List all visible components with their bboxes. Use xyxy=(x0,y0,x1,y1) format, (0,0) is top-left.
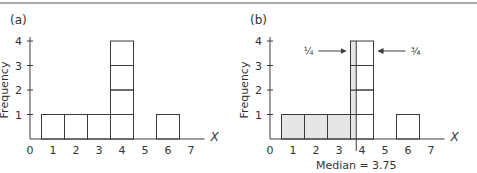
one-quarter-label: ¼ xyxy=(304,46,314,57)
median-caption: Median = 3.75 xyxy=(316,159,397,172)
y-tick-label: 3 xyxy=(15,60,22,73)
histogram-box xyxy=(111,115,134,140)
y-axis-label: Frequency xyxy=(0,61,11,118)
x-axis-label: X xyxy=(209,130,219,144)
y-tick-label: 1 xyxy=(15,109,22,122)
histogram-box xyxy=(111,66,134,91)
panel-label: (a) xyxy=(10,13,27,27)
median-histogram-figure: (a)123401234567XFrequency(b)123401234567… xyxy=(0,0,477,173)
x-tick-label: 4 xyxy=(359,144,366,157)
x-tick-label: 3 xyxy=(96,144,103,157)
histogram-box xyxy=(65,115,88,140)
histogram-box xyxy=(397,115,420,140)
histogram-box xyxy=(111,90,134,115)
x-tick-label: 7 xyxy=(428,144,435,157)
x-tick-label: 0 xyxy=(27,144,34,157)
x-tick-label: 3 xyxy=(336,144,343,157)
x-tick-label: 1 xyxy=(50,144,57,157)
x-tick-label: 1 xyxy=(290,144,297,157)
panel-a: (a)123401234567XFrequency xyxy=(0,13,219,157)
shaded-area xyxy=(328,115,351,140)
x-tick-label: 4 xyxy=(119,144,126,157)
y-tick-label: 3 xyxy=(255,60,262,73)
x-tick-label: 7 xyxy=(188,144,195,157)
panel-label: (b) xyxy=(250,13,267,27)
shaded-area xyxy=(351,115,357,140)
three-quarters-label: ¾ xyxy=(411,46,421,57)
x-tick-label: 2 xyxy=(73,144,80,157)
shaded-area xyxy=(282,115,305,140)
shaded-area xyxy=(305,115,328,140)
shaded-area xyxy=(351,66,357,91)
shaded-area xyxy=(351,41,357,66)
histogram-box xyxy=(42,115,65,140)
x-tick-label: 6 xyxy=(165,144,172,157)
histogram-box xyxy=(88,115,111,140)
y-tick-label: 4 xyxy=(15,35,22,48)
y-tick-label: 4 xyxy=(255,35,262,48)
x-tick-label: 5 xyxy=(142,144,149,157)
x-tick-label: 6 xyxy=(405,144,412,157)
y-axis-label: Frequency xyxy=(238,61,251,118)
y-tick-label: 2 xyxy=(15,84,22,97)
panel-b: (b)123401234567XFrequency¼¾Median = 3.75 xyxy=(238,13,459,172)
x-tick-label: 2 xyxy=(313,144,320,157)
x-tick-label: 5 xyxy=(382,144,389,157)
x-tick-label: 0 xyxy=(267,144,274,157)
shaded-area xyxy=(351,90,357,115)
histogram-box xyxy=(157,115,180,140)
y-tick-label: 2 xyxy=(255,84,262,97)
x-axis-label: X xyxy=(449,130,459,144)
histogram-box xyxy=(111,41,134,66)
y-tick-label: 1 xyxy=(255,109,262,122)
